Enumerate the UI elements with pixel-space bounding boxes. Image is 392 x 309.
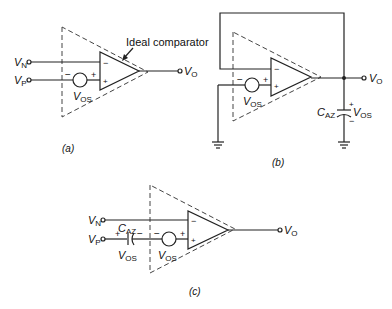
caz-label: CAZ [118,222,136,236]
panel-b: VO VOS − + − + CAZ + − VOS (b) [212,13,383,168]
source-minus-sign: − [65,69,71,80]
offset-voltage-source [245,78,259,92]
vp-label: VP [14,74,27,88]
opamp-noninverting-sign: + [274,82,279,91]
source-plus-sign: + [180,229,185,239]
vp-terminal [101,237,105,241]
opamp-inverting-sign: − [191,216,196,226]
source-plus-sign: + [263,75,268,85]
vo-label: VO [184,65,198,79]
capacitor-plus-sign: + [115,229,120,239]
dashed-comparator-boundary [233,32,321,121]
source-minus-sign: − [154,228,160,239]
panel-c: VN VP VO CAZ + − VOS − + − + VOS (c) [88,185,298,297]
vn-terminal [101,218,105,222]
ideal-comparator-label: Ideal comparator [126,36,209,48]
vn-label: VN [88,214,101,228]
circuit-diagram: Ideal comparator VN VP VO VOS − + − + (a… [0,0,392,309]
vos-label: VOS [158,249,177,263]
source-minus-sign: − [237,74,243,85]
offset-voltage-source [162,232,176,246]
vos-label: VOS [73,90,92,104]
panel-a: Ideal comparator VN VP VO VOS − + − + (a… [14,27,209,154]
caption-a: (a) [62,143,74,154]
ground-icon [338,142,350,148]
vp-label: VP [88,233,101,247]
vo-terminal [278,228,282,232]
vos-label: VOS [243,95,262,109]
capacitor-minus-sign: − [137,228,143,239]
opamp-inverting-sign: − [274,64,279,74]
vo-terminal [362,76,366,80]
vo-label: VO [284,224,298,238]
vo-terminal [178,69,182,73]
cap-vos-label: VOS [353,106,372,120]
caz-label: CAZ [317,106,335,120]
vp-terminal [27,78,31,82]
cap-vos-label: VOS [118,249,137,263]
caption-b: (b) [272,157,284,168]
offset-voltage-source [73,73,87,87]
opamp-noninverting-sign: + [191,236,196,245]
ground-icon [212,142,224,148]
opamp-noninverting-sign: + [103,77,108,86]
vo-label: VO [369,72,383,86]
vn-terminal [27,60,31,64]
caption-c: (c) [189,286,201,297]
source-plus-sign: + [91,70,96,80]
feedback-wire [220,13,344,78]
opamp-inverting-sign: − [103,58,108,68]
vn-label: VN [14,56,27,70]
